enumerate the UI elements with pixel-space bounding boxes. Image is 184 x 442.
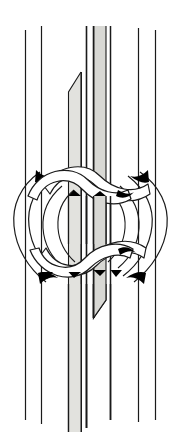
knot-diagram-figure: Knot tying diagram <box>0 0 184 442</box>
mid-shaded-right-fill <box>94 196 107 244</box>
below-shaded-left-fill <box>69 284 82 432</box>
mid-shaded-left-fill <box>69 196 82 244</box>
knot-illustration <box>0 0 184 442</box>
figure-background <box>0 0 184 442</box>
